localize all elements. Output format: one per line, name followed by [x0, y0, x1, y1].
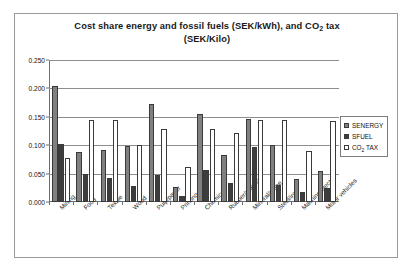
bar [76, 152, 81, 202]
bar [234, 133, 239, 202]
bar [246, 119, 251, 202]
bar [185, 167, 190, 202]
legend-label: CO2 TAX [352, 144, 378, 151]
y-tick-label: 0.000 [28, 199, 45, 206]
y-tick-label: 0.250 [28, 57, 45, 64]
bar-group [52, 60, 70, 202]
bar [276, 185, 281, 202]
x-tick-mark [73, 202, 74, 205]
y-tick-mark [46, 173, 49, 174]
y-tick-mark [46, 145, 49, 146]
bar [270, 145, 275, 202]
y-tick-label: 0.150 [28, 113, 45, 120]
bar [203, 170, 208, 202]
bar-group [125, 60, 143, 202]
legend-label: SFUEL [352, 133, 373, 140]
legend-label-subscript: 2 [362, 147, 365, 153]
bar [149, 104, 154, 202]
bar-group [270, 60, 288, 202]
bar [282, 120, 287, 202]
x-tick-mark [97, 202, 98, 205]
bar [173, 187, 178, 202]
y-tick-label: 0.050 [28, 170, 45, 177]
bar [155, 175, 160, 202]
bar-group [246, 60, 264, 202]
bar [294, 179, 299, 202]
legend-item[interactable]: SFUEL [344, 131, 383, 142]
bar [330, 121, 335, 202]
bar [228, 183, 233, 202]
chart-title-line2: (SEK/Kilo) [184, 34, 230, 44]
x-tick-mark [291, 202, 292, 205]
bar [197, 114, 202, 202]
bar [58, 144, 63, 203]
y-tick-label: 0.200 [28, 85, 45, 92]
chart-legend: SENERGYSFUELCO2 TAX [340, 116, 388, 157]
y-tick-mark [46, 60, 49, 61]
bar [306, 151, 311, 202]
chart-frame: Cost share energy and fossil fuels (SEK/… [14, 13, 398, 258]
bar [65, 158, 70, 202]
x-tick-mark [267, 202, 268, 205]
x-tick-mark [194, 202, 195, 205]
legend-swatch [344, 145, 349, 150]
legend-item[interactable]: CO2 TAX [344, 142, 383, 153]
bar [131, 186, 136, 202]
legend-swatch [344, 134, 349, 139]
bar [210, 129, 215, 202]
bar-group [318, 60, 336, 202]
bar [252, 147, 257, 202]
legend-swatch [344, 123, 349, 128]
bar [125, 146, 130, 202]
bar [221, 155, 226, 202]
chart-title: Cost share energy and fossil fuels (SEK/… [35, 20, 379, 46]
x-tick-mark [122, 202, 123, 205]
x-tick-mark [170, 202, 171, 205]
bar-group [76, 60, 94, 202]
bar [101, 150, 106, 202]
y-tick-label: 0.100 [28, 142, 45, 149]
x-tick-mark [242, 202, 243, 205]
bar [137, 145, 142, 202]
bar [89, 120, 94, 202]
y-tick-mark [46, 116, 49, 117]
x-tick-mark [315, 202, 316, 205]
bar [107, 178, 112, 202]
x-tick-mark [146, 202, 147, 205]
chart-title-line1-tail: tax [323, 21, 339, 31]
bar-group [101, 60, 119, 202]
bar [52, 86, 57, 202]
chart-title-line1-pre: Cost share energy and fossil fuels (SEK/… [74, 21, 319, 31]
bar [113, 120, 118, 202]
bar [179, 196, 184, 202]
y-tick-mark [46, 88, 49, 89]
legend-label: SENERGY [352, 122, 383, 129]
bar-group [149, 60, 167, 202]
bar-group [221, 60, 239, 202]
bar [161, 129, 166, 202]
bar [83, 174, 88, 202]
plot-area: 0.0000.0500.1000.1500.2000.250 MiningFoo… [49, 60, 339, 202]
bar [300, 192, 305, 202]
legend-item[interactable]: SENERGY [344, 120, 383, 131]
bar [318, 171, 323, 202]
bar [324, 188, 329, 202]
bar-group [197, 60, 215, 202]
chart-title-subscript: 2 [319, 25, 323, 32]
x-tick-mark [49, 202, 50, 205]
x-tick-mark [218, 202, 219, 205]
bar-group [173, 60, 191, 202]
bar-group [294, 60, 312, 202]
bar [258, 120, 263, 202]
